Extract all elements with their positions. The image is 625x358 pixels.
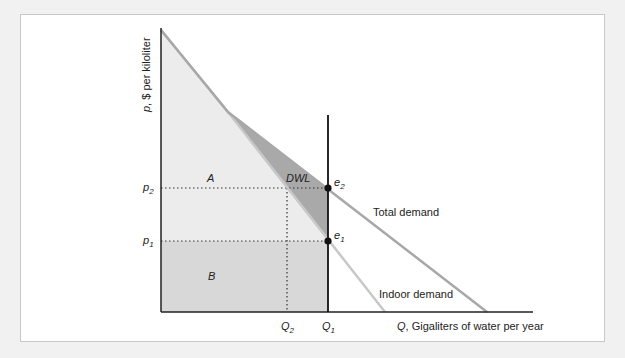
region-b — [161, 241, 328, 312]
demand-chart: e2 e1 A B DWL Total demand Indoor demand… — [0, 0, 625, 358]
region-b-label: B — [208, 270, 215, 282]
indoor-demand-label: Indoor demand — [379, 288, 453, 300]
dwl-label: DWL — [286, 172, 310, 184]
e2-label: e2 — [334, 176, 345, 191]
p2-tick-label: p2 — [142, 181, 154, 196]
q1-tick-label: Q1 — [322, 320, 335, 335]
e2-point — [324, 184, 331, 191]
p1-tick-label: p1 — [142, 234, 154, 249]
q2-tick-label: Q2 — [281, 320, 295, 335]
e1-label: e1 — [334, 229, 345, 244]
total-demand-label: Total demand — [373, 206, 439, 218]
x-axis-title: Q, Gigaliters of water per year — [397, 320, 544, 332]
e1-point — [324, 237, 331, 244]
y-axis-title: p, $ per kiloliter — [140, 37, 152, 113]
region-a-label: A — [206, 172, 214, 184]
